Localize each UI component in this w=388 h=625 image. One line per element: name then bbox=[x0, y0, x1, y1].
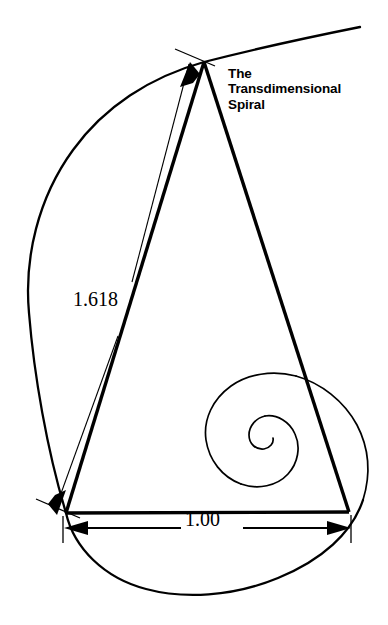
spiral-eye bbox=[249, 416, 273, 449]
dimension-extension-tick-apex bbox=[175, 49, 215, 66]
dimension-leader-lower bbox=[55, 336, 118, 510]
spiral-inner-turn-2 bbox=[241, 416, 298, 487]
figure-title: The Transdimensional Spiral bbox=[228, 66, 378, 112]
dimension-label-hypotenuse: 1.618 bbox=[73, 288, 118, 311]
triangle-edge-right bbox=[204, 62, 349, 512]
dimension-label-base: 1.00 bbox=[185, 508, 220, 531]
base-arrowhead-right bbox=[327, 521, 351, 535]
dimension-leader-upper bbox=[132, 64, 189, 282]
figure-canvas: The Transdimensional Spiral 1.618 1.00 bbox=[0, 0, 388, 625]
base-arrowhead-left bbox=[64, 521, 88, 535]
spiral-right-arc bbox=[296, 376, 368, 500]
